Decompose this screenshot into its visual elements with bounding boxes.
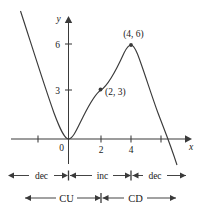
point-marker-max [129,43,133,47]
origin-label: 0 [59,143,64,153]
y-tick-label-6: 6 [55,40,60,50]
x-axis [11,135,192,142]
y-axis-arrowhead [65,16,72,23]
function-curve [21,11,178,165]
monotonicity-interval-bar: dec inc dec [8,171,186,182]
y-axis-label: y [55,14,61,24]
concavity-label-cu: CU [59,193,74,204]
y-tick-label-3: 3 [55,86,60,96]
inc-arrow-right [125,173,131,179]
cu-arrow-left [25,195,31,201]
interval-label-dec-right: dec [148,171,161,181]
x-axis-label: x [188,142,194,152]
point-marker-inflection [99,88,103,92]
inc-arrow-left [70,173,76,179]
y-axis [65,16,72,164]
x-tick-label-4: 4 [129,145,134,155]
dec-left-arrow [8,173,14,179]
dec-left-arrow-right [62,173,68,179]
point-label-inflection: (2, 3) [105,87,126,98]
concavity-interval-bar: CU CD [25,193,176,204]
interval-label-inc: inc [97,171,109,181]
concavity-label-cd: CD [128,193,143,204]
cd-arrow-left [103,195,109,201]
function-graph-figure: y x 6 3 0 2 4 (4, 6) (2, 3) [0,0,199,212]
x-tick-label-2: 2 [99,145,104,155]
curve-path [21,11,178,165]
dec-right-arrow-left [133,173,139,179]
dec-right-arrow-right [180,173,186,179]
point-label-max: (4, 6) [123,29,144,40]
graph-canvas: y x 6 3 0 2 4 (4, 6) (2, 3) [0,0,199,212]
interval-label-dec-left: dec [35,171,48,181]
cu-arrow-right [95,195,101,201]
cd-arrow-right [170,195,176,201]
